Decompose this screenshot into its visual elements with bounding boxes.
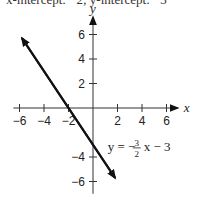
x-tick-label: 4 <box>139 114 146 128</box>
x-axis-label: x <box>183 100 190 115</box>
x-tick-label: −4 <box>37 114 51 128</box>
y-tick-label: 6 <box>78 28 85 42</box>
x-tick-label: 6 <box>163 114 170 128</box>
line-chart: xy−6−4−2246642−4−6y = −32x − 3 <box>0 0 201 197</box>
y-tick-label: −6 <box>71 175 85 189</box>
equation-label: y = − <box>108 139 136 154</box>
y-tick-label: 4 <box>78 52 85 66</box>
y-axis-label: y <box>88 1 96 16</box>
y-tick-label: −4 <box>71 150 85 164</box>
x-tick-label: 2 <box>114 114 121 128</box>
equation-suffix: x − 3 <box>144 139 171 154</box>
y-tick-label: 2 <box>78 77 85 91</box>
fraction-denominator: 2 <box>134 149 139 159</box>
fraction-numerator: 3 <box>134 138 139 148</box>
x-tick-label: −6 <box>13 114 27 128</box>
